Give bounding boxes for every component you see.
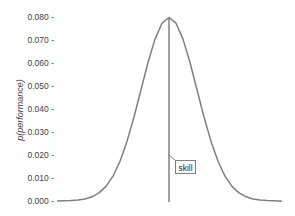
plot-area (0, 0, 295, 216)
skill-annotation: skill (175, 160, 196, 174)
performance-distribution-chart: p(performance) 0.080 - 0.070 - 0.060 - 0… (0, 0, 295, 216)
